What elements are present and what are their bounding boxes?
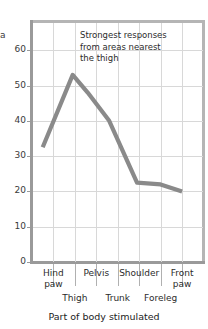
x-tick-label: Front paw [161, 268, 204, 290]
x-tick-label-lower: Thigh [53, 293, 96, 303]
x-axis-title: Part of body stimulated [0, 311, 208, 322]
x-tick-label: Pelvis [75, 268, 118, 279]
annotation-strongest-responses: Strongest responses from areas nearest t… [80, 30, 167, 65]
chart-container: a 0102030405060 Strongest responses from… [0, 0, 208, 329]
x-tick-label-lower: Foreleg [139, 293, 182, 303]
x-tick-label-lower: Trunk [96, 293, 139, 303]
x-tick-label: Hind paw [32, 268, 75, 290]
x-tick-label: Shoulder [118, 268, 161, 279]
